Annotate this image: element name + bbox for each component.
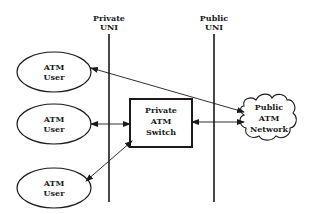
atm-user-1-label-line1: ATM bbox=[43, 62, 65, 72]
atm-user-2-label-line1: ATM bbox=[43, 114, 65, 124]
switch-label-line3: Switch bbox=[146, 127, 176, 137]
atm-uni-diagram: Private UNI Public UNI ATM User ATM User… bbox=[0, 0, 309, 214]
atm-user-3-label-line1: ATM bbox=[43, 178, 65, 188]
network-label-line2: ATM bbox=[258, 113, 280, 123]
private-uni: Private UNI bbox=[93, 13, 125, 202]
public-atm-network: Public ATM Network bbox=[240, 94, 296, 140]
atm-user-1: ATM User bbox=[17, 52, 91, 92]
atm-user-3-label-line2: User bbox=[44, 188, 66, 198]
atm-user-2: ATM User bbox=[17, 104, 91, 144]
public-uni: Public UNI bbox=[200, 13, 229, 202]
switch-label-line2: ATM bbox=[150, 116, 172, 126]
public-uni-label-line2: UNI bbox=[205, 22, 223, 32]
atm-user-1-label-line2: User bbox=[44, 72, 66, 82]
atm-user-3: ATM User bbox=[17, 168, 91, 208]
private-uni-label-line2: UNI bbox=[100, 22, 118, 32]
network-label-line1: Public bbox=[255, 102, 284, 112]
network-label-line3: Network bbox=[250, 124, 289, 134]
atm-user-2-label-line2: User bbox=[44, 124, 66, 134]
switch-label-line1: Private bbox=[145, 105, 177, 115]
private-atm-switch: Private ATM Switch bbox=[130, 99, 192, 147]
